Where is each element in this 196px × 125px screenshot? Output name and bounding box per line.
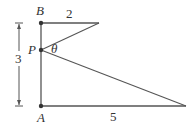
label-A: A <box>37 111 45 124</box>
diagram-lines <box>0 0 196 125</box>
label-top-length: 2 <box>66 7 73 20</box>
label-B: B <box>36 4 44 17</box>
point-P <box>39 48 43 52</box>
arrowhead-up-icon <box>17 24 21 29</box>
label-theta: θ <box>51 42 57 55</box>
point-B <box>39 21 43 25</box>
segment-P-top <box>41 23 99 50</box>
point-A <box>39 104 43 108</box>
arrowhead-down-icon <box>17 100 21 105</box>
label-P: P <box>28 43 36 56</box>
label-height: 3 <box>15 52 22 65</box>
geometry-diagram: B 2 P θ 3 A 5 <box>0 0 196 125</box>
segment-P-bottom <box>41 50 186 106</box>
label-bottom-length: 5 <box>110 110 117 123</box>
